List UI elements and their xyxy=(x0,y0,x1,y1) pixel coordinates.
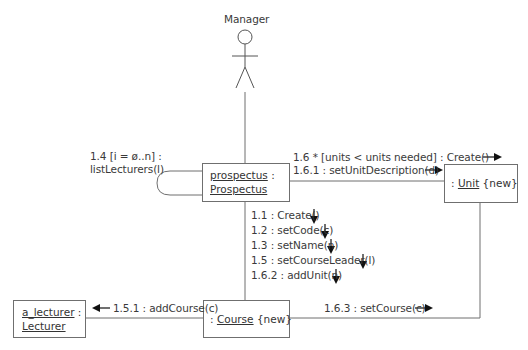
message-unit-set-course: 1.6.3 : setCourse(c) xyxy=(324,302,426,315)
object-class-name: Course xyxy=(217,313,254,325)
object-unit[interactable]: : Unit {new} xyxy=(444,164,518,203)
message-course-set-code: 1.2 : setCode(c) xyxy=(251,224,333,237)
message-course-set-name: 1.3 : setName(n) xyxy=(251,239,338,252)
object-prospectus[interactable]: prospectus : Prospectus xyxy=(202,163,290,202)
message-unit-set-description: 1.6.1 : setUnitDescription(d) xyxy=(293,164,439,177)
message-unit-create: 1.6 * [units < units needed] : Create() xyxy=(293,151,489,164)
communication-diagram: Manager prospectus : Prospectus : Unit {… xyxy=(0,0,528,350)
message-course-add-unit: 1.6.2 : addUnit(n) xyxy=(251,269,342,282)
message-self-loop-call: listLecturers(l) xyxy=(90,163,164,176)
object-class-name: Unit xyxy=(458,177,479,189)
message-self-loop-guard: 1.4 [i = ø..n] : xyxy=(90,150,162,163)
message-lecturer-add-course: 1.5.1 : addCourse(c) xyxy=(113,302,218,315)
object-class-name: Prospectus xyxy=(210,183,267,195)
actor-stick-figure-icon xyxy=(232,30,258,88)
actor-manager-label: Manager xyxy=(224,13,269,26)
object-class-name: Lecturer xyxy=(22,320,66,332)
message-course-set-leader: 1.5 : setCourseLeader(l) xyxy=(251,254,375,267)
object-instance-name: a_lecturer xyxy=(22,306,74,318)
arrow-left-icon xyxy=(92,304,110,312)
object-instance-name: prospectus xyxy=(210,169,268,181)
message-course-create: 1.1 : Create() xyxy=(251,209,320,222)
object-lecturer[interactable]: a_lecturer : Lecturer xyxy=(13,300,86,338)
